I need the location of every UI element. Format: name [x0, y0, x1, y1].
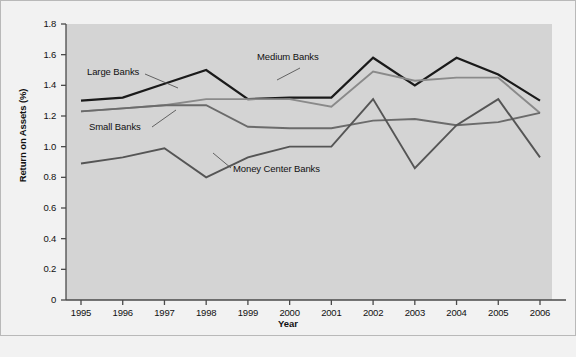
chart-figure: 00.20.40.60.81.01.21.41.61.8 19951996199…	[0, 0, 576, 357]
y-axis-title: Return on Assets (%)	[17, 76, 28, 196]
x-tick-label: 2005	[481, 307, 515, 318]
y-tick-label: 0.6	[30, 202, 56, 213]
x-axis-ticks	[81, 300, 540, 305]
y-tick-label: 1.0	[30, 141, 56, 152]
x-tick-label: 1995	[64, 307, 98, 318]
x-tick-label: 1998	[189, 307, 223, 318]
y-tick-label: 1.8	[30, 18, 56, 29]
x-tick-label: 2001	[314, 307, 348, 318]
y-tick-label: 1.2	[30, 110, 56, 121]
y-tick-label: 0	[30, 294, 56, 305]
y-tick-label: 0.8	[30, 171, 56, 182]
x-tick-label: 2004	[440, 307, 474, 318]
x-tick-label: 2002	[356, 307, 390, 318]
x-tick-label: 2006	[523, 307, 557, 318]
x-axis-title: Year	[0, 318, 576, 329]
y-tick-label: 0.2	[30, 263, 56, 274]
x-tick-label: 2000	[273, 307, 307, 318]
x-tick-label: 1996	[106, 307, 140, 318]
x-tick-label: 1997	[147, 307, 181, 318]
series-label-small-banks: Small Banks	[89, 121, 141, 132]
series-label-medium-banks: Medium Banks	[257, 51, 319, 62]
y-tick-label: 1.4	[30, 79, 56, 90]
x-tick-label: 1999	[231, 307, 265, 318]
y-tick-label: 0.4	[30, 233, 56, 244]
x-tick-label: 2003	[398, 307, 432, 318]
y-tick-label: 1.6	[30, 49, 56, 60]
series-label-money-center-banks: Money Center Banks	[233, 163, 320, 174]
y-axis-ticks	[61, 24, 66, 300]
series-label-large-banks: Large Banks	[87, 66, 139, 77]
